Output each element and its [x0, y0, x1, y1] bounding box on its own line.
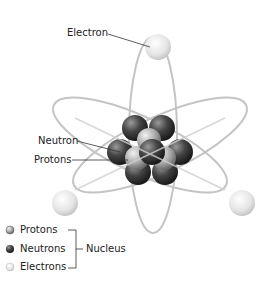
electron-label: Electron [67, 27, 108, 39]
legend-protons: Protons [20, 224, 57, 236]
nucleus-bracket [68, 230, 83, 268]
nucleus [107, 115, 193, 185]
legend-electrons: Electrons [20, 261, 66, 273]
electron-right [229, 190, 255, 216]
legend-neutrons: Neutrons [20, 243, 65, 255]
electron-icon [6, 263, 14, 271]
electron-left [52, 190, 78, 216]
neutron-icon [6, 245, 14, 253]
legend-nucleus: Nucleus [86, 243, 126, 255]
proton-icon [6, 226, 14, 234]
protons-label: Protons [34, 154, 71, 166]
neutron-label: Neutron [38, 135, 78, 147]
